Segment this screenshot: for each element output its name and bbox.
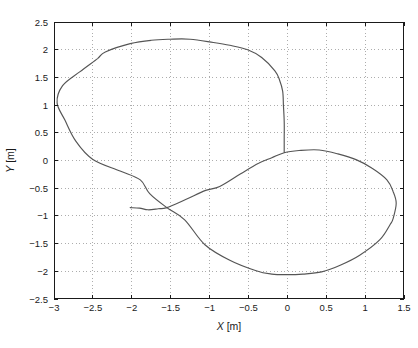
- x-tick-label: −1.5: [161, 302, 180, 313]
- y-tick-label: −2.5: [29, 294, 48, 305]
- x-tick-label: −0.5: [239, 302, 258, 313]
- x-tick-label: −2.5: [84, 302, 103, 313]
- y-tick-label: 2: [43, 44, 48, 55]
- y-tick-label: −2: [37, 266, 48, 277]
- trajectory-curve-layer: [57, 39, 396, 275]
- x-tick-label: 1.5: [397, 302, 410, 313]
- y-axis-label: Y [m]: [4, 148, 16, 173]
- grid: [54, 22, 404, 299]
- y-tick-label: −0.5: [29, 183, 48, 194]
- y-tick-label: −1.5: [29, 238, 48, 249]
- x-axis-label: X [m]: [216, 320, 242, 332]
- y-tick-label: 2.5: [35, 17, 48, 28]
- x-tick-label: 0: [285, 302, 290, 313]
- labels-layer: X [m] Y [m] −3−2.5−2−1.5−1−0.500.511.5−2…: [4, 17, 411, 333]
- plot-frame: [55, 23, 404, 299]
- y-tick-label: −1: [37, 210, 48, 221]
- trajectory-curve: [57, 39, 396, 275]
- y-tick-label: 0: [43, 155, 48, 166]
- x-tick-label: −2: [126, 302, 137, 313]
- tick-marks-layer: [54, 22, 404, 299]
- axes-frame-layer: [55, 23, 404, 299]
- x-tick-label: 1: [362, 302, 367, 313]
- y-tick-label: 1: [43, 100, 48, 111]
- x-tick-label: 0.5: [320, 302, 333, 313]
- y-tick-label: 0.5: [35, 127, 48, 138]
- x-tick-label: −1: [204, 302, 215, 313]
- x-tick-label: −3: [49, 302, 60, 313]
- y-tick-label: 1.5: [35, 72, 48, 83]
- xy-trajectory-plot: X [m] Y [m] −3−2.5−2−1.5−1−0.500.511.5−2…: [0, 0, 418, 348]
- figure-canvas: X [m] Y [m] −3−2.5−2−1.5−1−0.500.511.5−2…: [0, 0, 418, 348]
